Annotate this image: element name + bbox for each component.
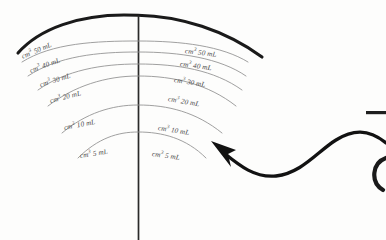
beaker-illustration [0, 0, 386, 240]
curved-pointer-arrow [211, 132, 386, 176]
edge-dash-mark [366, 111, 386, 114]
edge-paren-mark [374, 158, 386, 190]
figure-canvas: cm3 50 mL cm3 40 mL cm3 30 mL cm3 20 mL … [0, 0, 386, 240]
beaker-rim-arc [18, 15, 262, 57]
